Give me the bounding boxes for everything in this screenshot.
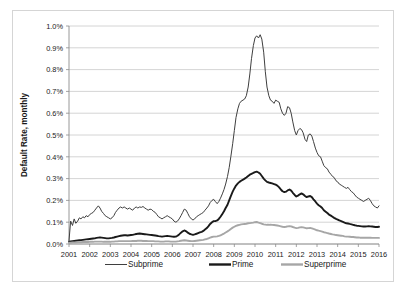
x-tick-label: 2012 (288, 250, 304, 259)
x-tick-label: 2003 (102, 250, 118, 259)
x-tick-label: 2004 (123, 250, 139, 259)
x-tick-label: 2007 (185, 250, 201, 259)
x-tick-label: 2002 (81, 250, 97, 259)
chart-legend: SubprimePrimeSuperprime (105, 260, 347, 269)
series-line-prime (69, 172, 379, 242)
legend-label-prime: Prime (232, 260, 254, 269)
y-tick-label: 0.9% (46, 44, 63, 53)
y-tick-label: 0.5% (46, 131, 63, 140)
x-tick-label: 2015 (350, 250, 366, 259)
y-tick-label: 1.0% (46, 22, 63, 31)
y-axis-title: Default Rate, monthly (20, 92, 29, 177)
legend-label-superprime: Superprime (304, 260, 347, 269)
x-tick-label: 2010 (247, 250, 263, 259)
y-tick-label: 0.3% (46, 174, 63, 183)
x-tick-label: 2016 (371, 250, 387, 259)
y-tick-label: 0.2% (46, 196, 63, 205)
y-tick-label: 0.0% (46, 240, 63, 249)
x-tick-label: 2014 (329, 250, 345, 259)
data-series-group (69, 35, 379, 243)
x-tick-label: 2009 (226, 250, 242, 259)
x-tick-label: 2001 (61, 250, 77, 259)
x-tick-label: 2006 (164, 250, 180, 259)
x-axis-tick-labels: 2001200220032004200520062007200820092010… (61, 250, 387, 259)
x-tick-label: 2011 (268, 250, 284, 259)
y-tick-label: 0.6% (46, 109, 63, 118)
y-tick-label: 0.1% (46, 218, 63, 227)
x-tick-label: 2005 (143, 250, 159, 259)
x-tick-label: 2008 (205, 250, 221, 259)
series-line-superprime (69, 222, 379, 243)
legend-label-subprime: Subprime (128, 260, 163, 269)
y-tick-label: 0.7% (46, 87, 63, 96)
y-axis-tick-labels: 0.0%0.1%0.2%0.3%0.4%0.5%0.6%0.7%0.8%0.9%… (46, 22, 63, 249)
x-tick-label: 2013 (309, 250, 325, 259)
y-tick-label: 0.8% (46, 65, 63, 74)
chart-container: 0.0%0.1%0.2%0.3%0.4%0.5%0.6%0.7%0.8%0.9%… (12, 10, 394, 282)
default-rate-line-chart: 0.0%0.1%0.2%0.3%0.4%0.5%0.6%0.7%0.8%0.9%… (13, 11, 393, 281)
y-tick-label: 0.4% (46, 153, 63, 162)
